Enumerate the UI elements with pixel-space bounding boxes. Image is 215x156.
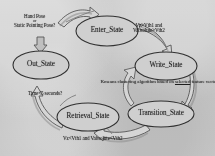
condition-line-2: Static Pointing Pose?: [14, 23, 55, 28]
diagram-screenshot: Enter_State Write_State Transition_State…: [0, 0, 215, 156]
condition-line-1: Time<5 seconds?: [28, 91, 62, 96]
state-label-out: Out_State: [27, 61, 55, 68]
condition-label-timeout: Time<5 seconds?: [28, 91, 62, 96]
condition-label-hand-pose: Hand Pose or Static Pointing Pose?: [14, 14, 55, 29]
condition-line-1: Vz<Vth1 and Vabsolute<Vth2: [63, 136, 122, 141]
arrow-transition-to-write-inner: [123, 67, 136, 106]
state-label-write: Write_State: [150, 62, 183, 69]
inner-note-kmeans: Kmeans clustering algorithm based on sel…: [100, 78, 215, 85]
state-label-retrieval: Retrieval_State: [67, 113, 110, 120]
state-label-enter: Enter_State: [91, 27, 123, 34]
inner-note-line-2-underlined: selected: [175, 79, 190, 84]
condition-line-2: Vabsolute>Vth2: [133, 28, 165, 33]
state-label-transition: Transition_State: [138, 110, 184, 117]
inner-note-line-1: Kmeans clustering algorithm: [100, 79, 155, 84]
condition-label-back-to-out: Vz<Vth1 and Vabsolute<Vth2: [63, 136, 122, 141]
inner-note-line-2-pre: based on: [157, 79, 175, 84]
inner-note-line-2: based on selected feature vectors: [157, 79, 215, 84]
inner-note-line-2-post: feature vectors: [190, 79, 215, 84]
condition-label-enter-to-write: Vz>Vth1 and Vabsolute>Vth2: [133, 23, 165, 33]
